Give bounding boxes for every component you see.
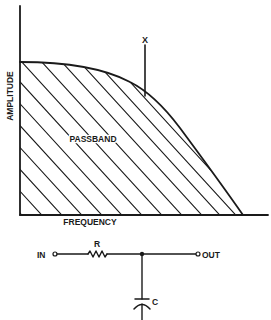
rc-circuit: IN R OUT C bbox=[37, 239, 221, 320]
lowpass-filter-diagram: X AMPLITUDE FREQUENCY PASSBAND IN R OUT … bbox=[0, 0, 271, 320]
passband-label: PASSBAND bbox=[69, 134, 116, 144]
y-axis-label: AMPLITUDE bbox=[5, 71, 15, 121]
capacitor-label: C bbox=[152, 297, 158, 307]
output-label: OUT bbox=[202, 250, 221, 260]
resistor-label: R bbox=[94, 239, 100, 249]
x-axis-label: FREQUENCY bbox=[63, 217, 117, 227]
passband-hatching bbox=[0, 60, 271, 235]
cutoff-marker-label: X bbox=[142, 35, 148, 45]
output-terminal bbox=[196, 252, 200, 256]
resistor-symbol bbox=[88, 251, 107, 257]
response-graph: X AMPLITUDE FREQUENCY PASSBAND bbox=[0, 6, 271, 235]
input-label: IN bbox=[37, 250, 46, 260]
